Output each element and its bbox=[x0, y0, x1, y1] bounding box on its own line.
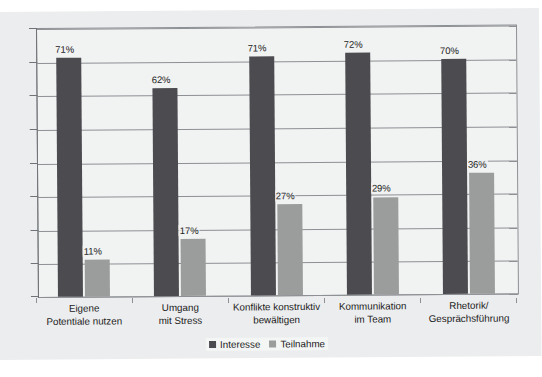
bar-value-label: 29% bbox=[371, 183, 392, 194]
bar-value-label: 71% bbox=[247, 43, 268, 54]
bar-interesse-2 bbox=[249, 57, 276, 296]
bars-layer: 71%11%62%17%71%27%72%29%70%36% bbox=[36, 24, 519, 297]
bar-value-label: 27% bbox=[275, 190, 296, 201]
bar-value-label: 11% bbox=[83, 246, 103, 257]
bar-interesse-0 bbox=[56, 58, 83, 297]
bar-teilnahme-1 bbox=[181, 239, 206, 296]
bar-value-label: 17% bbox=[179, 225, 200, 236]
category-label-line: Rhetorik/ bbox=[403, 299, 535, 312]
category-label-line: Gesprächsführung bbox=[403, 312, 535, 325]
bar-teilnahme-0 bbox=[85, 259, 110, 296]
bar-value-label: 72% bbox=[343, 38, 364, 49]
chart-legend: InteresseTeilnahme bbox=[206, 337, 328, 351]
bar-interesse-4 bbox=[441, 58, 468, 294]
legend-swatch-icon bbox=[269, 340, 276, 347]
bar-teilnahme-2 bbox=[277, 204, 303, 295]
legend-item-interesse: Interesse bbox=[209, 339, 260, 350]
bar-value-label: 36% bbox=[467, 159, 488, 170]
legend-label: Teilnahme bbox=[280, 338, 325, 349]
legend-label: Interesse bbox=[220, 339, 260, 350]
bar-value-label: 62% bbox=[151, 74, 172, 85]
bar-interesse-1 bbox=[153, 87, 180, 296]
category-label-4: Rhetorik/Gesprächsführung bbox=[403, 299, 535, 325]
legend-swatch-icon bbox=[209, 341, 216, 348]
legend-item-teilnahme: Teilnahme bbox=[269, 338, 325, 349]
bar-teilnahme-3 bbox=[373, 197, 399, 295]
bar-value-label: 70% bbox=[439, 45, 460, 56]
bar-teilnahme-4 bbox=[469, 173, 495, 294]
bar-value-label: 71% bbox=[54, 44, 75, 55]
bar-interesse-3 bbox=[345, 52, 372, 294]
category-labels: EigenePotentiale nutzenUmgangmit StressK… bbox=[36, 299, 517, 303]
